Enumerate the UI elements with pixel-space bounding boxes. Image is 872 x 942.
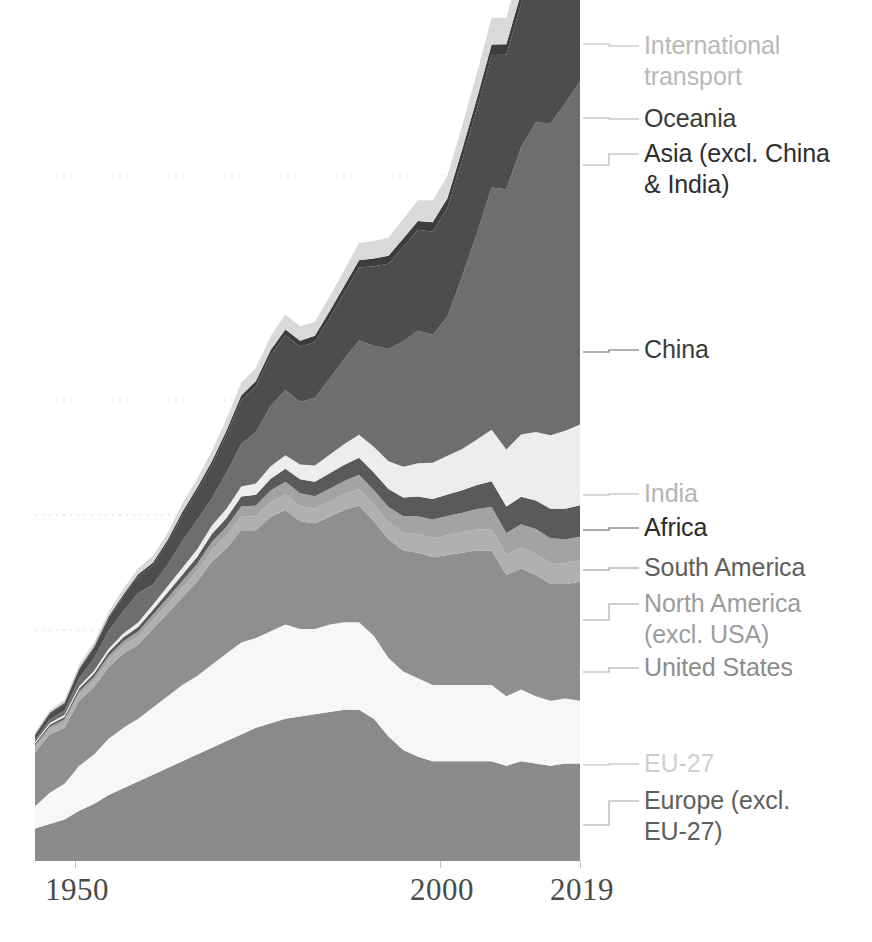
x-tick-label-2000: 2000 bbox=[410, 872, 474, 908]
leader-line-7 bbox=[583, 604, 639, 620]
area-bands bbox=[35, 0, 580, 860]
x-tick-mark-2019 bbox=[580, 861, 581, 868]
leader-line-4 bbox=[583, 494, 639, 495]
x-tick-mark-1950 bbox=[75, 861, 76, 868]
leader-line-6 bbox=[583, 568, 639, 570]
plot-area bbox=[0, 0, 600, 880]
leader-line-0 bbox=[583, 44, 639, 46]
leader-line-1 bbox=[583, 118, 639, 119]
leader-line-2 bbox=[583, 154, 639, 165]
leader-line-5 bbox=[583, 528, 639, 530]
x-tick-label-1950: 1950 bbox=[45, 872, 109, 908]
x-axis: 195020002019 bbox=[0, 858, 600, 942]
x-axis-line bbox=[35, 858, 580, 861]
stacked-area-chart bbox=[0, 0, 600, 880]
chart-screenshot: 195020002019 International transportOcea… bbox=[0, 0, 872, 942]
chart-legend: International transportOceaniaAsia (excl… bbox=[583, 0, 872, 880]
legend-leader-lines bbox=[583, 0, 872, 880]
leader-line-3 bbox=[583, 350, 639, 352]
leader-line-9 bbox=[583, 764, 639, 765]
leader-line-10 bbox=[583, 801, 639, 825]
leader-line-8 bbox=[583, 668, 639, 672]
x-tick-mark-2000 bbox=[440, 861, 441, 868]
